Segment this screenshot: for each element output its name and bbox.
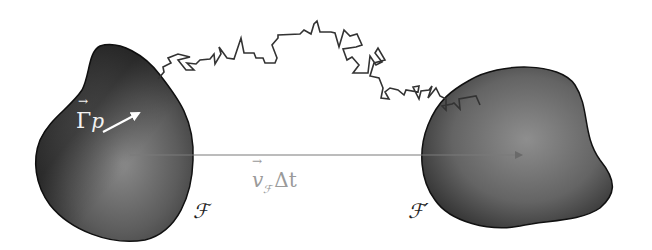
region-f-prime-blob <box>422 67 613 228</box>
region-f-prime-label: ℱ′ <box>408 199 429 223</box>
velocity-symbol: v <box>252 168 263 192</box>
region-f-blob <box>36 45 193 242</box>
region-f-label: ℱ <box>193 199 209 223</box>
delta-t: Δt <box>274 168 296 192</box>
random-walk-path <box>158 21 480 110</box>
velocity-delta-t-label: vℱΔt <box>252 168 297 192</box>
gamma-p-label: Γp <box>76 108 104 133</box>
gamma-subscript: p <box>91 109 104 133</box>
gamma-symbol: Γ <box>76 108 91 133</box>
velocity-subscript: ℱ <box>263 183 272 196</box>
diagram-canvas: Γp vℱΔt ℱ ℱ′ <box>0 0 652 250</box>
